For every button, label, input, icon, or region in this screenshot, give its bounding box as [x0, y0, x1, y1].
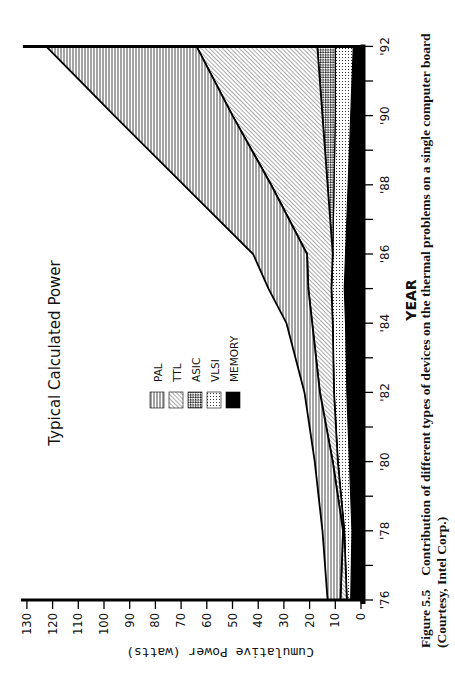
x-tick-label: '80 — [378, 452, 392, 471]
y-tick-label: 80 — [148, 613, 162, 628]
y-tick-label: 50 — [226, 613, 240, 628]
legend-label-asic: ASIC — [190, 358, 202, 382]
legend-swatch-asic — [188, 392, 202, 408]
x-tick-label: '78 — [378, 522, 392, 541]
legend: PALTTLASICVLSIMEMORY — [150, 335, 240, 408]
y-tick-label: 10 — [328, 613, 342, 628]
legend-label-vlsi: VLSI — [209, 359, 221, 382]
caption-credit: (Courtesy, Intel Corp.) — [434, 0, 450, 648]
y-tick-label: 30 — [277, 613, 291, 628]
y-axis-label: Cumulative Power (watts) — [126, 645, 314, 660]
y-tick-label: 60 — [200, 613, 214, 628]
x-tick-label: '86 — [378, 245, 392, 264]
y-tick-label: 0 — [354, 613, 368, 620]
rotated-figure: '76'78'80'82'84'86'88'90'920102030405060… — [0, 0, 455, 688]
y-tick-label: 100 — [97, 613, 111, 635]
x-tick-label: '76 — [378, 591, 392, 610]
stacked-area-chart: '76'78'80'82'84'86'88'90'920102030405060… — [0, 0, 455, 688]
legend-swatch-pal — [150, 392, 164, 408]
legend-swatch-ttl — [169, 392, 183, 408]
x-tick-label: '88 — [378, 176, 392, 195]
y-tick-label: 110 — [71, 613, 85, 635]
chart-title: Typical Calculated Power — [46, 259, 64, 446]
y-tick-label: 40 — [251, 613, 265, 628]
x-tick-label: '84 — [378, 314, 392, 333]
y-tick-label: 70 — [174, 613, 188, 628]
y-tick-label: 120 — [46, 613, 60, 635]
y-tick-label: 90 — [123, 613, 137, 628]
figure-number: Figure 5.5 — [418, 590, 434, 648]
x-tick-label: '92 — [378, 37, 392, 56]
x-tick-label: '90 — [378, 106, 392, 125]
x-tick-label: '82 — [378, 383, 392, 402]
caption-text: Contribution of different types of devic… — [418, 34, 434, 576]
legend-label-pal: PAL — [152, 363, 164, 382]
stacked-areas — [46, 46, 361, 600]
legend-swatch-memory — [226, 392, 240, 408]
x-axis-label: YEAR — [403, 279, 419, 322]
figure-caption: Figure 5.5 Contribution of different typ… — [418, 0, 450, 648]
y-tick-label: 130 — [20, 613, 34, 635]
legend-swatch-vlsi — [207, 392, 221, 408]
legend-label-memory: MEMORY — [228, 335, 240, 382]
y-tick-label: 20 — [303, 613, 317, 628]
legend-label-ttl: TTL — [171, 363, 183, 383]
